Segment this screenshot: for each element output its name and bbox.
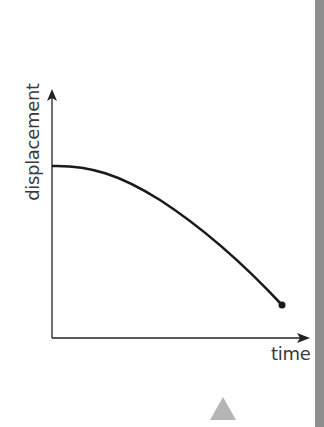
displacement-curve xyxy=(52,166,282,305)
end-point-marker xyxy=(279,302,286,309)
y-axis-label: displacement xyxy=(22,83,43,201)
x-axis-label: time xyxy=(271,343,310,364)
page-edge-bar xyxy=(315,0,324,427)
up-triangle-icon[interactable] xyxy=(210,397,236,420)
